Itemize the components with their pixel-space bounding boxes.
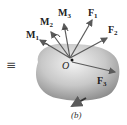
- equivalence-symbol: ≡: [6, 58, 16, 72]
- moment-label-m2: M2: [40, 17, 53, 29]
- origin-label: O: [62, 60, 69, 71]
- moment-label-m1: M1: [26, 30, 39, 42]
- rigid-body: [36, 44, 119, 101]
- force-label-f3: F3: [97, 76, 107, 88]
- rigid-body-diagram: ≡ M1 M2 M3 F1 F2 F3 O (b): [0, 0, 127, 125]
- moment-label-m3: M3: [58, 8, 71, 20]
- force-label-f1: F1: [88, 8, 98, 20]
- force-label-f2: F2: [108, 25, 118, 37]
- figure-caption: (b): [71, 110, 82, 120]
